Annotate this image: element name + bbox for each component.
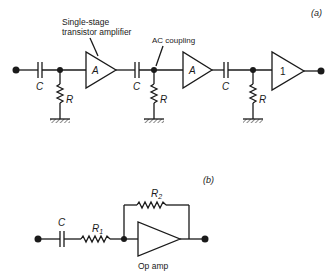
- annotation-amp-line1: Single-stage: [62, 17, 110, 27]
- feedback-resistor: [137, 202, 166, 208]
- annotation-coupling-leader: [156, 46, 163, 66]
- ground-2: [144, 119, 164, 123]
- capacitor-2-label: C: [133, 81, 141, 92]
- resistor-1-label: R: [66, 94, 73, 105]
- input-resistor-label: R1: [92, 223, 103, 235]
- amplifier-2-label: A: [188, 65, 196, 76]
- ground-3: [243, 119, 263, 123]
- capacitor-3: [224, 62, 228, 78]
- panel-label-b: (b): [203, 175, 214, 185]
- capacitor-1-label: C: [36, 81, 44, 92]
- ground-1: [50, 119, 70, 123]
- amplifier-1: [86, 52, 116, 88]
- capacitor-b: [60, 231, 64, 247]
- feedback-resistor-label: R2: [151, 188, 162, 200]
- output-terminal: [318, 68, 325, 75]
- op-amp-label: Op amp: [138, 261, 169, 271]
- amplifier-2: [183, 52, 212, 88]
- annotation-amp-leader: [90, 38, 98, 56]
- circuit-diagram: (a) C R A Single-stage transistor amplif…: [0, 0, 335, 278]
- input-resistor: [81, 236, 110, 242]
- capacitor-2: [135, 62, 139, 78]
- resistor-3-label: R: [259, 94, 266, 105]
- capacitor-3-label: C: [222, 81, 230, 92]
- amplifier-1-label: A: [91, 65, 99, 76]
- op-amp: [138, 222, 180, 256]
- annotation-coupling: AC coupling: [152, 36, 195, 45]
- resistor-2-label: R: [160, 94, 167, 105]
- buffer-amplifier-label: 1: [280, 66, 286, 77]
- capacitor-b-label: C: [58, 217, 66, 228]
- buffer-amplifier: [272, 52, 304, 90]
- capacitor-1: [38, 62, 42, 78]
- panel-label-a: (a): [311, 8, 322, 18]
- output-terminal-b: [202, 236, 209, 243]
- annotation-amp-line2: transistor amplifier: [62, 27, 132, 37]
